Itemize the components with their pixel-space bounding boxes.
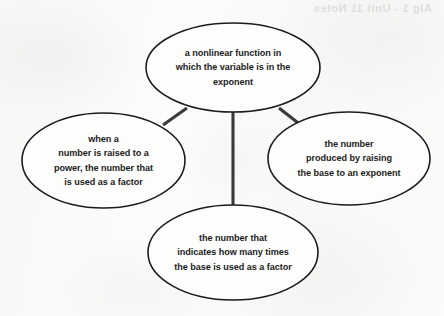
concept-map-graphics [0, 0, 444, 316]
concept-map-canvas: Alg 1 - Unit 11 Notes a nonlinear functi… [0, 0, 444, 316]
ellipse-left[interactable] [22, 113, 185, 208]
ellipse-top[interactable] [146, 23, 320, 112]
ellipse-bottom[interactable] [148, 205, 318, 300]
ellipse-layer [22, 23, 430, 300]
connector-top-left [163, 108, 187, 125]
ellipse-right[interactable] [268, 112, 430, 205]
